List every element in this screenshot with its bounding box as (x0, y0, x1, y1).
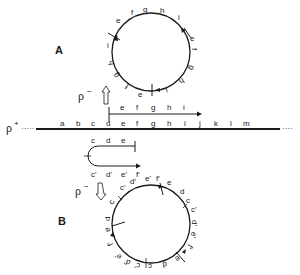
main-letter: l (230, 119, 232, 128)
upper-letter: i (183, 103, 185, 112)
main-letter: a (60, 119, 65, 128)
circle-a-letter: h (160, 6, 164, 15)
hairpin-bottom-letter: e' (121, 170, 127, 179)
dots-left: ····· (21, 124, 34, 133)
hairpin-top-letter: d (106, 136, 110, 145)
arrowhead-icon (110, 232, 115, 237)
circle-b-letter: d' (190, 220, 199, 226)
hairpin-bottom-letter: c' (91, 170, 97, 179)
arrowhead-icon (182, 249, 186, 254)
rho-plus-strand: ρ + ····· ···· a b c d e f g h i j k l m (6, 119, 293, 135)
hollow-arrow-down-icon (96, 183, 106, 200)
circle-a-letter: e (116, 16, 121, 25)
main-letter: h (167, 119, 171, 128)
circle-a-letter: e (190, 34, 195, 43)
upper-letter: e (120, 103, 125, 112)
circle-b-letter: d' (122, 257, 131, 268)
circle-b-letter: f' (156, 174, 160, 183)
circle-a-letter: g (143, 5, 147, 14)
main-letter: b (76, 119, 81, 128)
hollow-arrow-up-icon (102, 86, 110, 104)
main-letter: m (243, 119, 250, 128)
circle-a: e f g h i e f g h i e f g h i (107, 5, 199, 99)
arrowhead-icon (155, 88, 160, 92)
hairpin-top-letter: e (121, 136, 126, 145)
circle-b-letter: e (103, 226, 113, 232)
circle-b-letter: d' (130, 177, 136, 186)
circle-b-letter: d (162, 260, 168, 270)
circle-b-letter: f' (105, 240, 115, 248)
circle-b-letter: c (107, 199, 117, 206)
panel-label-b: B (58, 215, 66, 227)
rho-plus-sup: + (14, 119, 19, 128)
rho-minus-b-label: ρ (75, 184, 81, 198)
circle-a-letter: e (138, 90, 143, 99)
circle-b-letter: e (167, 178, 172, 187)
circle-b-letter: e' (113, 250, 123, 261)
rho-minus-a-label: ρ (78, 89, 84, 103)
circle-b-letter: e' (188, 231, 198, 239)
main-letter: g (151, 119, 155, 128)
rho-plus-label: ρ (6, 121, 12, 135)
upper-letter: h (167, 103, 171, 112)
rolling-circle-diagram: A B e f g h i e f g h i e f g h i ρ − e (0, 0, 300, 275)
hairpin-bottom-letter: f' (136, 170, 140, 179)
circle-a-letter: f (131, 8, 134, 17)
circle-b-letter: e' (145, 174, 151, 183)
circle-a-letter: g (111, 71, 121, 80)
circle-b-letter: c' (120, 183, 126, 192)
circle-b-letter: c' (191, 205, 197, 214)
hairpin-strand: c d e c' d' e' f' (84, 136, 141, 179)
circle-a-letter: i (107, 41, 109, 50)
rho-minus-b-sup: − (84, 182, 89, 191)
panel-label-a: A (55, 44, 63, 56)
main-letter: j (198, 119, 201, 128)
dots-right: ···· (282, 124, 293, 133)
upper-letter: f (136, 103, 139, 112)
circle-b: c' d' e' f' e d c c' d' e' f' e d c c' d… (103, 174, 199, 271)
rho-minus-a-sup: − (87, 87, 92, 96)
main-letter: c (91, 119, 95, 128)
main-letter: e (121, 119, 126, 128)
main-letter: k (214, 119, 219, 128)
circle-a-letter: g (186, 64, 196, 72)
circle-a-letter: f (190, 48, 199, 51)
circle-b-letter: f' (185, 243, 195, 251)
circle-b-letter: c (148, 262, 152, 271)
hairpin-top-letter: c (91, 136, 95, 145)
circle-b-letter: c (186, 196, 190, 205)
circle-a-letter: h (107, 60, 117, 66)
circle-b-letter: d (103, 217, 112, 221)
main-letter: f (136, 119, 139, 128)
arrowhead-icon (136, 164, 141, 169)
circle-a-letter: h (177, 76, 185, 86)
hairpin-bottom-letter: d' (106, 170, 112, 179)
arrowhead-icon (197, 112, 202, 117)
main-letter: d (106, 119, 110, 128)
circle-a-letter: i (178, 13, 180, 22)
circle-b-letter: c' (133, 260, 140, 270)
circle-b-letter: d (180, 187, 184, 196)
upper-letter: g (151, 103, 155, 112)
main-letter: i (184, 119, 186, 128)
